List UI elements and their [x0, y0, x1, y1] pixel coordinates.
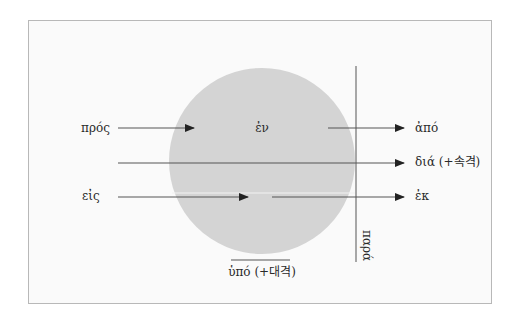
label-ek: ἐκ [415, 189, 429, 203]
label-apo: ἀπό [415, 121, 438, 135]
label-en: ἐν [255, 121, 269, 135]
label-pros: πρός [81, 121, 110, 135]
circle-region [169, 68, 355, 254]
label-hypo: ὑπό (+대격) [228, 265, 296, 279]
label-eis: εἰς [82, 189, 100, 203]
label-para: παρά [360, 230, 374, 261]
label-dia: διά (+속격) [415, 155, 480, 169]
preposition-diagram: πρός ἐν ἀπό διά (+속격) εἰς ἐκ ὑπό (+대격) π… [0, 0, 520, 325]
